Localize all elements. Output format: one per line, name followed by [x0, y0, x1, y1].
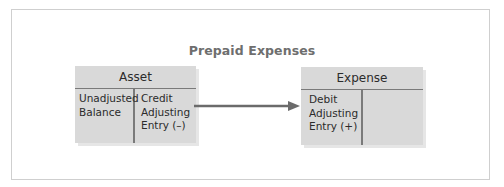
asset-account-header: Asset	[75, 66, 196, 89]
asset-credit-line: Adjusting	[141, 106, 190, 120]
asset-credit-line: Credit	[141, 92, 190, 106]
asset-debit-line: Balance	[79, 106, 139, 120]
expense-debit-side: Debit Adjusting Entry (+)	[309, 93, 358, 134]
expense-account-header: Expense	[301, 67, 423, 90]
diagram-title: Prepaid Expenses	[0, 43, 504, 58]
expense-debit-line: Entry (+)	[309, 120, 358, 134]
asset-t-account: Asset Unadjusted Balance Credit Adjustin…	[75, 66, 196, 143]
expense-debit-line: Debit	[309, 93, 358, 107]
arrow-right-icon	[194, 101, 300, 111]
asset-credit-line: Entry (–)	[141, 119, 190, 133]
asset-debit-side: Unadjusted Balance	[79, 92, 139, 119]
expense-t-account: Expense Debit Adjusting Entry (+)	[301, 67, 423, 145]
asset-debit-line: Unadjusted	[79, 92, 139, 106]
expense-debit-line: Adjusting	[309, 107, 358, 121]
asset-credit-side: Credit Adjusting Entry (–)	[141, 92, 190, 133]
expense-account-divider	[361, 89, 363, 145]
